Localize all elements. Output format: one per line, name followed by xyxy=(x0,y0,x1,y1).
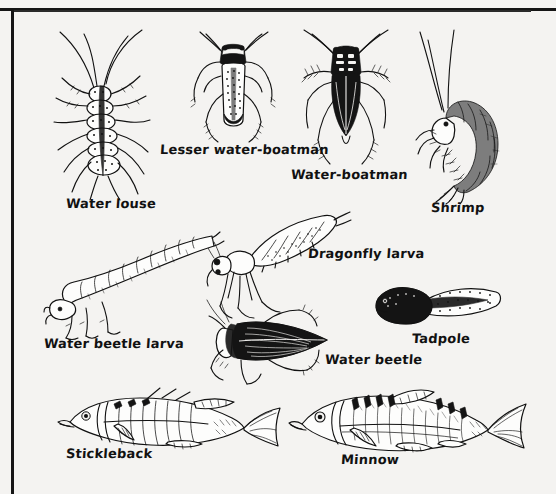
label-tadpole: Tadpole xyxy=(411,331,470,346)
figure-water-beetle-larva xyxy=(46,236,216,340)
figure-water-louse xyxy=(48,26,173,201)
figure-water-boatman xyxy=(286,28,411,168)
figure-lesser-water-boatman xyxy=(178,28,293,148)
label-stickleback: Stickleback xyxy=(65,446,152,461)
label-water-beetle: Water beetle xyxy=(324,352,423,367)
label-water-louse: Water louse xyxy=(65,196,156,211)
water-louse-icon xyxy=(48,26,173,201)
lesser-water-boatman-icon xyxy=(178,28,293,148)
water-beetle-icon xyxy=(203,298,348,384)
illustration-plate: Water louse xyxy=(0,0,556,494)
figure-minnow xyxy=(288,386,528,466)
figure-shrimp xyxy=(406,26,531,204)
figure-water-beetle xyxy=(203,298,348,384)
label-water-boatman: Water-boatman xyxy=(290,167,408,182)
label-water-beetle-larva: Water beetle larva xyxy=(43,336,184,351)
figure-tadpole xyxy=(370,284,505,338)
water-boatman-icon xyxy=(286,28,411,168)
tadpole-icon xyxy=(370,284,505,338)
shrimp-icon xyxy=(406,26,531,204)
water-beetle-larva-icon xyxy=(46,236,216,340)
label-dragonfly-larva: Dragonfly larva xyxy=(307,246,425,261)
label-minnow: Minnow xyxy=(340,452,399,467)
minnow-icon xyxy=(288,386,528,466)
frame-top-inner-rule xyxy=(11,10,531,12)
frame-left-rule xyxy=(11,9,14,494)
label-shrimp: Shrimp xyxy=(430,200,485,215)
